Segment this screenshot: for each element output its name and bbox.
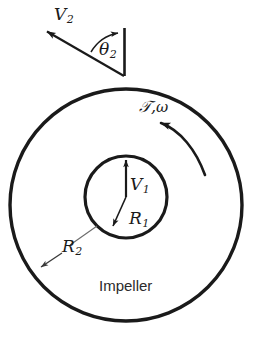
torque-omega-arrow [161, 123, 205, 175]
r1-vector [113, 197, 126, 226]
label-r1: R1 [129, 210, 149, 229]
label-v2: V2 [54, 6, 74, 25]
label-torque-omega: 𝒯,ω [139, 99, 168, 115]
script-t-glyph: 𝒯 [139, 97, 151, 116]
r2-vector [41, 253, 62, 267]
label-theta2: θ2 [99, 41, 117, 60]
label-r2: R2 [62, 238, 82, 257]
label-v1: V1 [130, 176, 150, 195]
impeller-diagram [0, 0, 271, 346]
omega-glyph: ω [156, 98, 168, 116]
label-impeller: Impeller [99, 278, 152, 293]
